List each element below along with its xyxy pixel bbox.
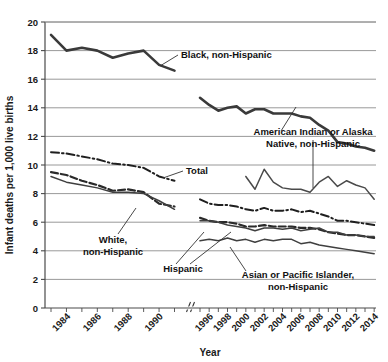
series-annotation-label: Asian or Pacific Islander, [242, 269, 354, 280]
series-annotation-label-line2: non-Hispanic [83, 246, 143, 257]
y-tick-label: 8 [33, 188, 38, 199]
series-annotation-label-line2: Native, non-Hispanic [266, 138, 360, 149]
y-tick-label: 0 [33, 303, 38, 314]
series-annotation-label-line2: non-Hispanic [268, 281, 328, 292]
series-annotation-label: Total [186, 165, 208, 176]
y-tick-label: 16 [27, 74, 38, 85]
series-annotation-label: American Indian or Alaska [254, 126, 374, 137]
series-annotation-label: Hispanic [163, 263, 203, 274]
chart-container: 02468101214161820 1984198619881990199619… [0, 0, 388, 362]
y-axis-title: Infant deaths per 1,000 live births [4, 95, 15, 254]
y-tick-label: 2 [33, 274, 38, 285]
series-annotation-label: White, [99, 234, 128, 245]
y-tick-label: 14 [27, 102, 38, 113]
y-tick-label: 6 [33, 217, 38, 228]
series-annotation-label: Black, non-Hispanic [181, 49, 272, 60]
y-tick-label: 4 [33, 245, 39, 256]
y-tick-label: 18 [27, 45, 38, 56]
y-tick-label: 20 [27, 17, 38, 28]
x-axis-title: Year [199, 347, 220, 358]
y-tick-label: 12 [27, 131, 38, 142]
y-tick-label: 10 [27, 160, 38, 171]
infant-mortality-line-chart: 02468101214161820 1984198619881990199619… [0, 0, 388, 362]
